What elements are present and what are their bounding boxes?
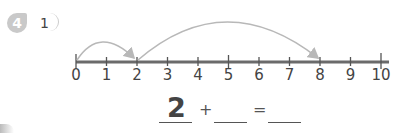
tick-label-4: 4 — [193, 66, 203, 84]
tick-label-0: 0 — [71, 66, 81, 84]
equals-sign: = — [253, 100, 266, 119]
second-addend-blank[interactable] — [214, 122, 247, 123]
plus-sign: + — [199, 100, 212, 119]
tick-label-3: 3 — [163, 66, 173, 84]
tick-label-2: 2 — [132, 66, 142, 84]
tick-label-1: 1 — [102, 66, 112, 84]
tick-label-9: 9 — [346, 66, 356, 84]
tick-label-7: 7 — [285, 66, 295, 84]
tick-label-5: 5 — [224, 66, 234, 84]
number-line — [0, 0, 408, 70]
jump-arc-0-to-2 — [77, 42, 134, 60]
jump-arc-2-to-8 — [138, 22, 318, 60]
tick-label-10: 10 — [371, 66, 390, 84]
first-addend-value: 2 — [167, 92, 186, 123]
next-problem-badge-edge — [0, 124, 14, 133]
tick-label-8: 8 — [315, 66, 325, 84]
tick-label-6: 6 — [254, 66, 264, 84]
sum-blank[interactable] — [268, 122, 301, 123]
